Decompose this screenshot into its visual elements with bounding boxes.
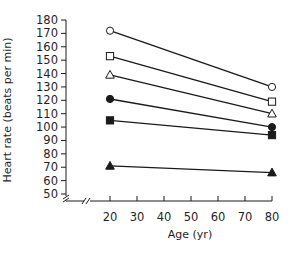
y-tick-label: 50 <box>43 187 58 201</box>
series-open-triangle <box>106 70 277 117</box>
y-tick-label: 130 <box>36 80 58 94</box>
y-tick-label: 150 <box>36 53 58 67</box>
x-tick-label: 30 <box>130 210 145 224</box>
y-tick-label: 160 <box>36 40 58 54</box>
y-tick-label: 60 <box>43 174 58 188</box>
x-tick-label: 70 <box>238 210 253 224</box>
series-filled-circle <box>106 95 275 130</box>
x-tick-label: 20 <box>103 210 118 224</box>
square-marker <box>106 53 113 60</box>
triangle-marker <box>106 70 115 78</box>
x-tick-label: 60 <box>211 210 226 224</box>
series-filled-square <box>106 117 275 139</box>
x-tick-label: 40 <box>157 210 172 224</box>
x-tick-label: 50 <box>184 210 199 224</box>
y-tick-label: 180 <box>36 13 58 27</box>
circle-marker <box>268 83 275 90</box>
circle-marker <box>106 27 113 34</box>
circle-marker <box>106 95 113 102</box>
y-tick-label: 90 <box>43 133 58 147</box>
x-axis-title: Age (yr) <box>168 228 212 241</box>
y-tick-label: 140 <box>36 67 58 81</box>
y-tick-label: 70 <box>43 160 58 174</box>
triangle-marker <box>106 161 115 169</box>
circle-marker <box>268 123 275 130</box>
series-filled-triangle <box>106 161 277 175</box>
series-open-circle <box>106 27 275 90</box>
y-tick-label: 110 <box>36 107 58 121</box>
y-tick-label: 170 <box>36 26 58 40</box>
square-marker <box>106 117 113 124</box>
y-axis: 5060708090100110120130140150160170180 <box>36 13 69 202</box>
heart-rate-vs-age-chart: 5060708090100110120130140150160170180 20… <box>0 0 297 254</box>
y-axis-title: Heart rate (beats per min) <box>1 37 14 182</box>
series-line <box>110 166 272 173</box>
data-series <box>106 27 277 176</box>
x-axis: 20304050607080 <box>66 196 279 224</box>
y-tick-label: 80 <box>43 147 58 161</box>
y-tick-label: 120 <box>36 93 58 107</box>
y-tick-label: 100 <box>36 120 58 134</box>
square-marker <box>268 98 275 105</box>
x-tick-label: 80 <box>265 210 280 224</box>
square-marker <box>268 132 275 139</box>
